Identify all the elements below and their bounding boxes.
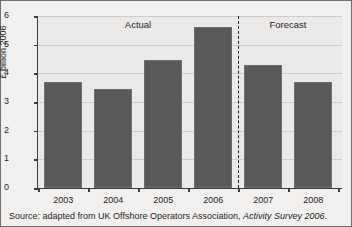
y-tick-mark-4 — [34, 73, 38, 75]
actual-forecast-divider — [238, 16, 239, 188]
y-tick-label-3: 3 — [0, 96, 9, 106]
bar-2007 — [244, 65, 282, 188]
x-tick-mark-0 — [38, 188, 40, 192]
x-tick-mark-2 — [138, 188, 140, 192]
x-tick-label-2005: 2005 — [141, 195, 185, 205]
bar-2005 — [144, 60, 182, 188]
x-tick-label-2007: 2007 — [241, 195, 285, 205]
y-tick-label-6: 6 — [0, 10, 9, 20]
y-tick-mark-3 — [34, 102, 38, 104]
y-tick-label-4: 4 — [0, 67, 9, 77]
source-note: Source: adapted from UK Offshore Operato… — [9, 211, 327, 221]
source-prefix: Source: adapted from UK Offshore Operato… — [9, 211, 243, 221]
source-title: Activity Survey 2006 — [243, 211, 325, 221]
bar-2008 — [294, 82, 332, 188]
gridline-5 — [38, 45, 342, 46]
x-tick-mark-3 — [188, 188, 190, 192]
x-tick-label-2006: 2006 — [191, 195, 235, 205]
forecast-region-label: Forecast — [248, 19, 328, 30]
bar-2004 — [94, 89, 132, 188]
y-tick-mark-5 — [34, 45, 38, 47]
gridline-4 — [38, 73, 342, 74]
bar-2006 — [194, 27, 232, 188]
y-tick-mark-2 — [34, 131, 38, 133]
gridline-6 — [38, 16, 342, 17]
plot-area: 2003 2004 2005 2006 2007 2008 Actual For… — [37, 16, 342, 189]
x-tick-mark-6 — [338, 188, 340, 192]
y-tick-label-5: 5 — [0, 39, 9, 49]
y-axis-label: £ billion 2006 — [0, 7, 8, 97]
x-tick-mark-5 — [288, 188, 290, 192]
bar-2003 — [44, 82, 82, 188]
y-tick-mark-6 — [34, 16, 38, 18]
y-tick-mark-1 — [34, 159, 38, 161]
actual-region-label: Actual — [98, 19, 178, 30]
y-tick-label-2: 2 — [0, 125, 9, 135]
x-tick-label-2008: 2008 — [291, 195, 335, 205]
x-tick-mark-1 — [88, 188, 90, 192]
chart-figure: £ billion 2006 6 5 4 3 2 1 0 — [0, 0, 352, 227]
y-tick-label-1: 1 — [0, 153, 9, 163]
y-tick-label-0: 0 — [0, 182, 9, 192]
x-tick-mark-4 — [238, 188, 240, 192]
x-tick-label-2003: 2003 — [41, 195, 85, 205]
x-tick-label-2004: 2004 — [91, 195, 135, 205]
source-suffix: . — [325, 211, 328, 221]
